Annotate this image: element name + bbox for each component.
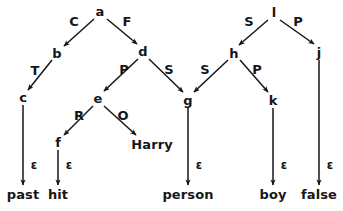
edge-label-e-to-f: R bbox=[74, 109, 84, 122]
tree-node-e: e bbox=[94, 92, 103, 105]
tree-node-b: b bbox=[52, 47, 61, 60]
edge-label-h-to-k: P bbox=[252, 63, 262, 76]
tree-node-f: f bbox=[55, 136, 61, 149]
tree-node-h: h bbox=[229, 47, 238, 60]
tree-edges-layer bbox=[0, 0, 343, 211]
leaf-node-person: person bbox=[162, 188, 213, 201]
edge-label-e-to-Harry: O bbox=[117, 109, 128, 122]
edge-label-d-to-g: S bbox=[164, 63, 173, 76]
dependency-tree-diagram: abcdefghkljHarrypasthitpersonboyfalse CF… bbox=[0, 0, 343, 211]
edge-label-g-to-person: ε bbox=[196, 160, 202, 172]
edge-label-f-to-hit: ε bbox=[66, 160, 72, 172]
tree-edge-h-to-g bbox=[194, 60, 228, 92]
edge-label-l-to-j: P bbox=[293, 15, 303, 28]
leaf-node-past: past bbox=[7, 188, 39, 201]
tree-node-c: c bbox=[19, 91, 27, 104]
edge-label-k-to-boy: ε bbox=[281, 160, 287, 172]
leaf-node-boy: boy bbox=[259, 188, 286, 201]
edge-label-d-to-e: P bbox=[119, 63, 129, 76]
edge-label-c-to-past: ε bbox=[31, 160, 37, 172]
leaf-node-Harry: Harry bbox=[131, 138, 172, 151]
edge-label-l-to-h: S bbox=[244, 15, 253, 28]
edge-label-a-to-b: C bbox=[69, 15, 79, 28]
edge-label-j-to-false: ε bbox=[327, 160, 333, 172]
tree-node-j: j bbox=[317, 46, 321, 59]
tree-node-g: g bbox=[183, 94, 192, 107]
edge-label-b-to-c: T bbox=[31, 64, 40, 77]
tree-node-a: a bbox=[96, 5, 105, 18]
tree-node-d: d bbox=[138, 45, 147, 58]
leaf-node-hit: hit bbox=[48, 188, 68, 201]
leaf-node-false: false bbox=[301, 188, 337, 201]
tree-node-l: l bbox=[272, 6, 276, 19]
tree-node-k: k bbox=[269, 94, 278, 107]
edge-label-a-to-d: F bbox=[123, 15, 132, 28]
edge-label-h-to-g: S bbox=[200, 63, 209, 76]
